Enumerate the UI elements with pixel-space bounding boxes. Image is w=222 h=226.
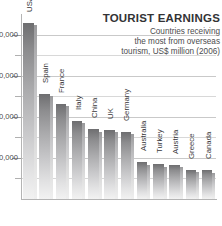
bar-side-shadow [66,106,69,199]
bar-category-label: Spain [41,63,50,83]
y-axis-tick-label: 0,000 [0,153,18,162]
bar-series: USASpainFranceItalyChinaUKGermanyAustral… [22,14,217,199]
bar-side-shadow [131,134,134,199]
bar[interactable] [202,170,213,199]
bar-category-label: France [57,69,66,93]
bar[interactable] [104,130,115,199]
bar-category-label: Germany [122,89,131,121]
y-axis-minor-tick [15,55,21,56]
y-axis-minor-tick [15,96,21,97]
bar-side-shadow [196,172,199,199]
bar-side-shadow [147,165,150,199]
bar-side-shadow [212,173,215,199]
bar-group[interactable]: Australia [137,14,151,199]
bar-group[interactable]: UK [104,14,118,199]
bar-group[interactable]: USA [23,14,37,199]
bar-category-label: Australia [138,121,147,151]
bar-category-label: UK [106,108,115,119]
bar-category-label: Turkey [154,130,163,154]
bar-side-shadow [50,96,53,199]
bar-group[interactable]: France [56,14,70,199]
bar-category-label: Austria [171,130,180,154]
bar-group[interactable]: Canada [202,14,216,199]
y-axis-tick-label: 0,000 [0,71,18,80]
bar-group[interactable]: Greece [186,14,200,199]
y-axis-minor-tick [15,137,21,138]
bar-side-shadow [34,25,37,199]
bar-side-shadow [180,167,183,199]
bar[interactable] [88,129,99,199]
bar[interactable] [186,170,197,199]
bar[interactable] [137,162,148,199]
bar-category-label: Canada [203,132,212,159]
y-axis-tick-label: 0,000 [0,30,18,39]
bar-group[interactable]: Italy [72,14,86,199]
bar[interactable] [23,23,34,199]
tourist-earnings-chart: TOURIST EARNINGS Countries receivingthe … [0,0,222,226]
bar-group[interactable]: Turkey [153,14,167,199]
bar-side-shadow [115,132,118,199]
bar-category-label: Greece [187,133,196,159]
bar[interactable] [39,94,50,199]
bar[interactable] [56,104,67,199]
y-axis-tick-label: 0,000 [0,112,18,121]
bar-group[interactable]: Germany [121,14,135,199]
bar-category-label: China [89,98,98,118]
bar-group[interactable]: China [88,14,102,199]
bar[interactable] [121,132,132,199]
bar-category-label: USA [24,0,33,12]
bar-group[interactable]: Spain [39,14,53,199]
bar[interactable] [169,165,180,199]
bar-side-shadow [164,167,167,199]
bar-side-shadow [99,132,102,199]
bar-category-label: Italy [73,95,82,109]
bar[interactable] [153,164,164,199]
bar[interactable] [72,121,83,199]
bar-side-shadow [82,123,85,199]
bar-group[interactable]: Austria [169,14,183,199]
x-axis-line [21,199,217,200]
y-axis-minor-tick [15,178,21,179]
